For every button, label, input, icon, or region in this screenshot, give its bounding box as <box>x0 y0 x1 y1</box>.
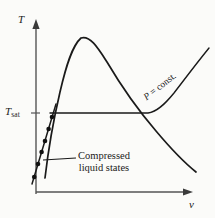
temperature-axis-label: T <box>18 13 24 25</box>
compressed-liquid-states-annotation: Compressed liquid states <box>78 150 130 174</box>
t-sat-subscript: sat <box>11 110 20 119</box>
specific-volume-axis-label: v <box>189 198 194 210</box>
tv-diagram-figure: T v Tsat P = const. Compressed liquid st… <box>0 0 215 218</box>
t-sat-label: Tsat <box>5 105 20 119</box>
specific-volume-axis <box>36 188 193 195</box>
annotation-line-2: liquid states <box>78 162 130 174</box>
constant-pressure-curve <box>50 48 209 113</box>
annotation-line-1: Compressed <box>78 150 130 162</box>
temperature-axis <box>32 19 39 194</box>
diagram-canvas <box>0 0 215 218</box>
